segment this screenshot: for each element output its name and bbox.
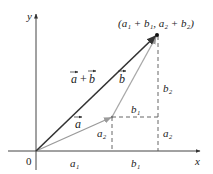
label-b-in-sum: b <box>89 72 95 86</box>
label-b: b <box>118 71 126 86</box>
vector-a-plus-b <box>36 36 156 151</box>
label-b2: b₂ <box>163 82 173 94</box>
label-plus: + <box>80 72 87 86</box>
label-a: a <box>74 117 82 131</box>
vector-diagram: y x 0 (a₁ + b₁, a₂ + b₂) a b a + b a₁ b₁… <box>0 0 213 174</box>
endpoint-label: (a₁ + b₁, a₂ + b₂) <box>118 17 194 30</box>
component-guides <box>112 36 158 151</box>
svg-text:a: a <box>75 117 81 131</box>
endpoint-dot <box>155 33 159 37</box>
origin-label: 0 <box>26 155 32 167</box>
y-axis-label: y <box>26 10 32 22</box>
label-b1-mid: b₁ <box>131 103 141 115</box>
label-b1-bottom: b₁ <box>131 157 141 169</box>
label-a-plus-b: a + b <box>70 71 96 86</box>
label-a-in-sum: a <box>71 72 77 86</box>
a-endpoint-dot <box>111 116 113 118</box>
x-axis-label: x <box>194 155 200 167</box>
label-a2-right: a₂ <box>163 127 173 139</box>
label-a2-left: a₂ <box>97 127 107 139</box>
label-a1: a₁ <box>70 157 80 169</box>
svg-text:b: b <box>119 72 125 86</box>
